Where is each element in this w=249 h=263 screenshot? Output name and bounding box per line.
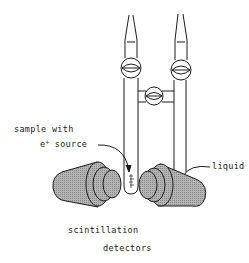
- detectors-label-line2: detectors: [103, 243, 152, 253]
- detectors-label-line1: scintillation: [68, 225, 138, 235]
- liquid-label: liquid: [212, 161, 245, 171]
- right-stopcock-icon: [171, 60, 191, 80]
- left-tube: [124, 15, 138, 194]
- sample-label-source: source: [49, 139, 87, 149]
- left-detector: [53, 162, 121, 207]
- middle-stopcock-icon: [145, 87, 163, 105]
- left-stopcock-icon: [121, 58, 141, 78]
- sample-label-line2: e+ source: [40, 139, 87, 149]
- right-tube: [174, 14, 187, 176]
- right-detector: [139, 164, 206, 206]
- sample-label-line1: sample with: [14, 124, 74, 134]
- sample-source-icon: [129, 174, 134, 188]
- liquid-pointer-icon: [183, 166, 210, 176]
